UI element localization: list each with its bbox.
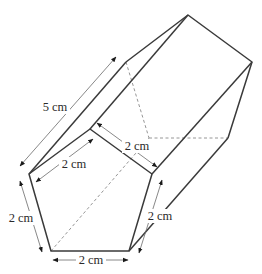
label-front-top-right-edge: 2 cm — [125, 139, 150, 153]
label-length: 5 cm — [43, 100, 68, 114]
label-front-right-edge: 2 cm — [148, 209, 173, 223]
lateral-edge-bottom-right — [129, 138, 228, 251]
lateral-edge-right — [152, 62, 252, 174]
label-front-bottom-edge: 2 cm — [79, 253, 104, 267]
lateral-edge-top — [90, 15, 188, 129]
pentagonal-prism-diagram: 5 cm 2 cm 2 cm 2 cm 2 cm 2 cm — [0, 0, 262, 274]
label-front-left-edge: 2 cm — [9, 211, 34, 225]
dimension-arrows — [20, 57, 162, 260]
back-face-visible-edges — [126, 15, 252, 138]
visible-edges — [29, 15, 252, 251]
label-front-top-left-edge: 2 cm — [62, 157, 87, 171]
